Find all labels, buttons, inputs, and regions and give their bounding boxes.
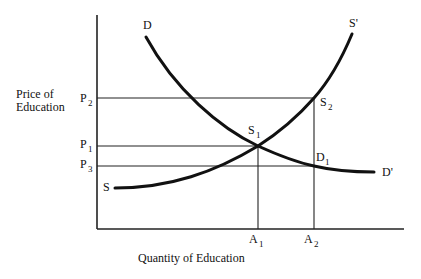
point-label-s1: S 1 <box>248 123 261 140</box>
supply-label-s-prime: S' <box>349 16 358 30</box>
quantity-label-a2: A 2 <box>304 232 319 249</box>
svg-text:3: 3 <box>88 164 93 174</box>
svg-text:P: P <box>80 157 87 171</box>
quantity-label-a1: A 1 <box>249 232 264 249</box>
svg-text:1: 1 <box>325 157 330 167</box>
svg-text:2: 2 <box>328 102 333 112</box>
point-label-d1: D 1 <box>316 150 330 167</box>
y-axis-label-line2: Education <box>16 100 65 114</box>
demand-label-d: D <box>143 18 152 32</box>
point-label-s2: S 2 <box>320 95 333 112</box>
svg-text:A: A <box>249 232 258 246</box>
svg-text:2: 2 <box>314 239 319 249</box>
supply-curve <box>115 34 352 188</box>
x-axis-label: Quantity of Education <box>138 251 245 265</box>
svg-text:1: 1 <box>88 144 93 154</box>
price-label-p2: P 2 <box>80 91 93 108</box>
price-label-p1: P 1 <box>80 137 93 154</box>
y-axis-label-line1: Price of <box>16 87 54 101</box>
svg-text:P: P <box>80 137 87 151</box>
svg-text:A: A <box>304 232 313 246</box>
svg-text:2: 2 <box>88 98 93 108</box>
svg-text:P: P <box>80 91 87 105</box>
price-label-p3: P 3 <box>80 157 93 174</box>
supply-label-s: S <box>103 180 110 194</box>
svg-text:S: S <box>320 95 327 109</box>
demand-label-d-prime: D' <box>382 165 393 179</box>
svg-text:1: 1 <box>259 239 264 249</box>
supply-demand-diagram: Price of Education Quantity of Education… <box>0 0 421 279</box>
svg-text:1: 1 <box>256 130 261 140</box>
svg-text:S: S <box>248 123 255 137</box>
svg-text:D: D <box>316 150 325 164</box>
